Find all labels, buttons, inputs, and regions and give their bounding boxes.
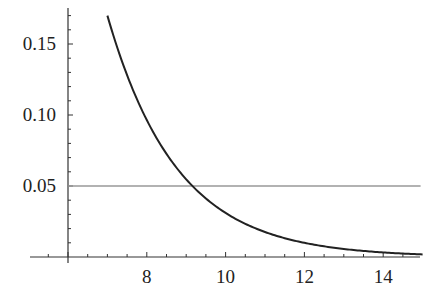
y-tick-label: 0.05 bbox=[23, 175, 56, 196]
y-tick-labels: 0.050.100.15 bbox=[23, 33, 56, 196]
x-tick-labels: 8101214 bbox=[142, 266, 393, 287]
x-tick-label: 12 bbox=[295, 266, 314, 287]
y-tick-label: 0.15 bbox=[23, 33, 56, 54]
x-tick-label: 8 bbox=[142, 266, 152, 287]
chart: 8101214 0.050.100.15 bbox=[0, 0, 436, 303]
x-tick-label: 14 bbox=[374, 266, 394, 287]
x-tick-label: 10 bbox=[216, 266, 235, 287]
curve-path bbox=[107, 16, 422, 255]
y-tick-label: 0.10 bbox=[23, 104, 56, 125]
curve bbox=[107, 16, 422, 255]
axes bbox=[30, 8, 420, 263]
